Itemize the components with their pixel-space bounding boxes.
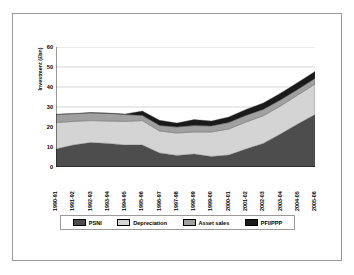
legend-entry-asset-sales[interactable]: Asset sales [183,219,230,226]
stacked-area-chart: Investment (£bn) 0102030405060 1990-9119… [13,14,343,262]
legend-label: Asset sales [199,220,230,226]
legend-swatch-psni [73,219,86,226]
x-axis-tick-labels: 1990-911991-921992-931993-941994-951995-… [56,169,315,211]
x-axis-tick-label: 1992-93 [87,191,93,211]
x-axis-tick-label: 2001-02 [242,191,248,211]
plot-svg [56,47,315,167]
x-axis-tick-label: 1991-92 [69,191,75,211]
x-axis-tick-label: 2002-03 [259,191,265,211]
y-axis-tick-labels: 0102030405060 [33,44,53,170]
legend-swatch-depreciation [117,219,130,226]
x-axis-tick-label: 2004-05 [294,191,300,211]
x-axis-tick-label: 2005-06 [311,191,317,211]
legend-swatch-pfi-ppp [245,219,258,226]
x-axis-tick-label: 2003-04 [277,191,283,211]
x-axis-tick-label: 1998-99 [190,191,196,211]
y-axis-tick-label: 50 [47,64,53,70]
x-axis-tick-label: 1997-98 [173,191,179,211]
y-axis-tick-label: 0 [50,164,53,170]
legend-label: PFI/PPP [261,220,282,226]
legend-label: Depreciation [133,220,167,226]
legend-entry-pfi-ppp[interactable]: PFI/PPP [245,219,282,226]
chart-legend: PSNIDepreciationAsset salesPFI/PPP [60,215,295,230]
x-axis-tick-label: 1999-00 [207,191,213,211]
y-axis-tick-label: 60 [47,44,53,50]
y-axis-tick-label: 20 [47,124,53,130]
plot-area [56,47,315,167]
legend-swatch-asset-sales [183,219,196,226]
y-axis-tick-label: 40 [47,84,53,90]
legend-label: PSNI [89,220,102,226]
y-axis-tick-label: 30 [47,104,53,110]
x-axis-tick-label: 2000-01 [225,191,231,211]
legend-entry-psni[interactable]: PSNI [73,219,102,226]
x-axis-tick-label: 1990-91 [52,191,58,211]
legend-entry-depreciation[interactable]: Depreciation [117,219,167,226]
x-axis-tick-label: 1993-94 [104,191,110,211]
x-axis-tick-label: 1996-97 [156,191,162,211]
figure-frame: Investment (£bn) 0102030405060 1990-9119… [12,13,342,261]
x-axis-tick-label: 1995-96 [138,191,144,211]
x-axis-tick-label: 1994-95 [121,191,127,211]
y-axis-tick-label: 10 [47,144,53,150]
